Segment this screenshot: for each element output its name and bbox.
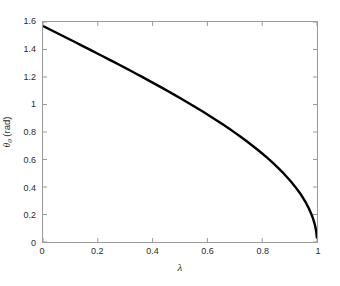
- x-tick-label-5: 1: [315, 247, 320, 256]
- x-tick-label-2: 0.4: [146, 247, 159, 256]
- x-tick-label-4: 0.8: [257, 247, 270, 256]
- chart-figure: 0 0.2 0.4 0.6 0.8 1 0 0.2 0.4 0.6 0.8 1 …: [0, 0, 340, 286]
- y-tick-label-1: 0.2: [14, 211, 36, 220]
- x-tick-label-1: 0.2: [91, 247, 104, 256]
- y-tick-label-7: 1.4: [14, 44, 36, 53]
- y-tick-label-8: 1.6: [14, 17, 36, 26]
- x-axis-label: λ: [178, 262, 183, 273]
- y-axis-label: θ0 (rad): [2, 117, 15, 148]
- y-axis-label-symbol: θ: [2, 143, 12, 148]
- y-tick-label-3: 0.6: [14, 155, 36, 164]
- y-axis-label-units: (rad): [1, 117, 12, 140]
- x-tick-label-3: 0.6: [201, 247, 214, 256]
- series-line-theta0: [43, 26, 317, 238]
- y-axis-label-subscript: 0: [6, 139, 14, 143]
- y-tick-label-0: 0: [22, 239, 36, 248]
- y-tick-label-5: 1: [22, 100, 36, 109]
- x-tick-label-0: 0: [39, 247, 44, 256]
- y-tick-label-4: 0.8: [14, 128, 36, 137]
- plot-area: [42, 21, 318, 243]
- y-tick-label-2: 0.4: [14, 183, 36, 192]
- curve-svg: [43, 22, 317, 242]
- y-tick-label-6: 1.2: [14, 72, 36, 81]
